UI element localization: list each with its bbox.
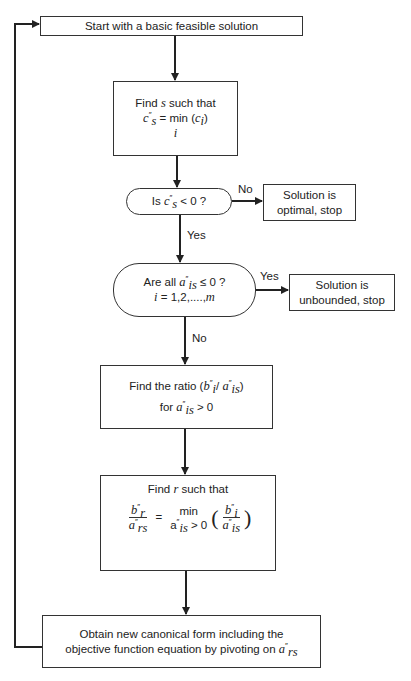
ratio-box: Find the ratio (b″i/ a″is) for a″is > 0 [100, 365, 273, 429]
optimal-line1: Solution is [283, 188, 336, 203]
ratio-line2: for a″is > 0 [160, 400, 214, 415]
pivot-line1: Obtain new canonical form including the [80, 627, 284, 642]
decision-ais-line2: i = 1,2,....,m [154, 290, 215, 305]
start-box: Start with a basic feasible solution [40, 16, 303, 36]
edge-label-cs-no: No [238, 183, 253, 195]
lhs-fraction: b″r a″rs [127, 503, 150, 532]
pivot-line2: objective function equation by pivoting … [65, 642, 297, 657]
find-s-equation: c″s = min (ci) [143, 111, 208, 126]
find-s-index: i [174, 126, 177, 141]
edge-label-cs-yes: Yes [187, 229, 206, 241]
decision-cs-negative: Is c″s < 0 ? [126, 188, 232, 215]
unbounded-line1: Solution is [315, 278, 368, 293]
unbounded-line2: unbounded, stop [299, 293, 385, 308]
edge-label-ais-no: No [192, 332, 207, 344]
edge-label-ais-yes: Yes [260, 270, 279, 282]
decision-ais-line1: Are all a″is ≤ 0 ? [144, 275, 226, 290]
find-r-box: Find r such that b″r a″rs = min a″is > 0… [100, 475, 276, 571]
min-operator: min a″is > 0 [170, 504, 207, 532]
find-r-line1: Find r such that [148, 482, 228, 497]
decision-ais-nonpositive: Are all a″is ≤ 0 ? i = 1,2,....,m [113, 263, 256, 317]
pivot-box: Obtain new canonical form including the … [42, 615, 321, 668]
find-s-box: Find s such that c″s = min (ci) i [113, 81, 238, 156]
optimal-box: Solution is optimal, stop [263, 184, 356, 221]
optimal-line2: optimal, stop [277, 203, 342, 218]
equals-sign: = [155, 510, 162, 525]
decision-cs-text: Is c″s < 0 ? [152, 194, 207, 209]
rhs-fraction: b″i a″is [221, 503, 242, 532]
start-text: Start with a basic feasible solution [85, 19, 258, 34]
find-r-equation: b″r a″rs = min a″is > 0 ( b″i a″is ) [125, 503, 252, 532]
find-s-line1: Find s such that [135, 96, 215, 111]
unbounded-box: Solution is unbounded, stop [289, 274, 395, 311]
ratio-line1: Find the ratio (b″i/ a″is) [129, 379, 243, 394]
